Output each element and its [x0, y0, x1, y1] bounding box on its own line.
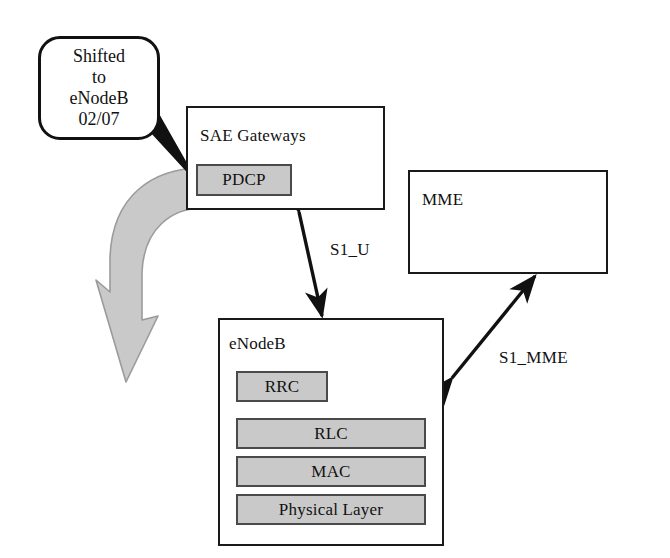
block-physical-layer: Physical Layer: [236, 494, 426, 525]
callout-line-3: eNodeB: [70, 88, 129, 109]
node-mme-label: MME: [422, 190, 463, 210]
shifted-note-callout: Shifted to eNodeB 02/07: [38, 36, 160, 140]
block-rlc: RLC: [236, 418, 426, 449]
connector-s1-u-label: S1_U: [330, 240, 370, 260]
callout-line-2: to: [92, 67, 106, 88]
node-mme: [408, 170, 608, 274]
block-rrc: RRC: [236, 371, 328, 402]
callout-line-1: Shifted: [73, 46, 125, 67]
block-pdcp: PDCP: [196, 164, 292, 196]
block-mac: MAC: [236, 456, 426, 487]
diagram-canvas: Shifted to eNodeB 02/07 SAE Gateways PDC…: [0, 0, 670, 558]
block-physical-layer-label: Physical Layer: [279, 500, 383, 520]
block-rrc-label: RRC: [265, 377, 300, 397]
block-rlc-label: RLC: [314, 424, 348, 444]
node-sae-gateways-label: SAE Gateways: [200, 126, 306, 146]
callout-line-4: 02/07: [78, 109, 119, 130]
connector-s1-mme-label: S1_MME: [499, 348, 568, 368]
node-enodeb-label: eNodeB: [229, 334, 286, 354]
connector-s1-u: [299, 212, 322, 316]
block-mac-label: MAC: [311, 462, 350, 482]
block-pdcp-label: PDCP: [222, 170, 265, 190]
